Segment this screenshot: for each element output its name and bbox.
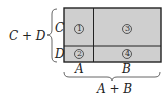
col-label-a: A [75,63,84,75]
col-label-b: B [122,63,131,75]
bottom-brace-label: A + B [97,83,132,95]
region-2-label: 2 [77,49,82,58]
region-1-label: 1 [77,24,82,33]
left-brace-label: C + D [9,30,46,42]
region-3-label: 3 [125,24,130,33]
row-label-d: D [55,48,65,60]
area-diagram [0,0,166,103]
region-4-label: 4 [125,49,130,58]
row-label-c: C [55,22,64,34]
